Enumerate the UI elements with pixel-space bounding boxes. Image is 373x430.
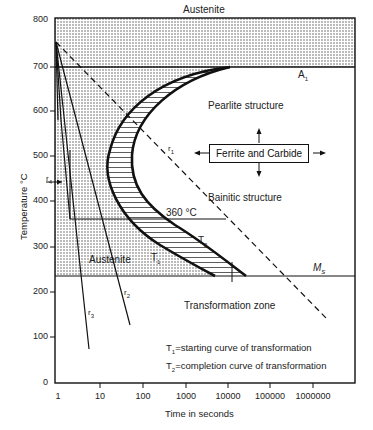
y-tick-0: 0 [24, 377, 48, 387]
y-tick-700: 700 [24, 61, 48, 71]
transformation-zone-label: Transformation zone [184, 300, 275, 311]
legend-t2-text: =completion curve of transformation [175, 360, 326, 371]
austenite-region-top [55, 18, 355, 67]
r2-label: r2 [124, 288, 130, 299]
t2-sub: 2 [204, 242, 207, 248]
arrow-down-icon [257, 171, 262, 177]
ferrite-carbide-label: Ferrite and Carbide [216, 148, 302, 159]
t1-label: T1 [151, 252, 160, 265]
y-tick-600: 600 [24, 105, 48, 115]
t1-sub: 1 [157, 259, 160, 265]
y-axis-label: Temperature °C [18, 173, 29, 240]
austenite-top-label: Austenite [183, 4, 225, 15]
x-tick-1000000: 1000000 [288, 391, 338, 401]
r1-label: r1 [168, 144, 174, 155]
arrow-left-icon [194, 151, 200, 156]
t2-label: T2 [198, 235, 207, 248]
pearlite-label: Pearlite structure [208, 100, 284, 111]
a1-sub: 1 [305, 76, 308, 82]
y-axis-ticks [50, 67, 55, 337]
r1-sub: 1 [171, 149, 174, 155]
legend-t2: T2=completion curve of transformation [166, 360, 326, 373]
bainitic-label: Bainitic structure [208, 192, 282, 203]
a1-label: A1 [298, 69, 308, 82]
x-axis-ticks [100, 383, 313, 388]
ms-label: MS [313, 262, 325, 275]
r3-sub: 3 [91, 313, 94, 319]
ms-sub: S [321, 269, 325, 275]
ferrite-carbide-box: Ferrite and Carbide [209, 144, 309, 163]
arrow-up-icon [257, 128, 262, 134]
y-tick-300: 300 [24, 241, 48, 251]
austenite-bottom-label: Austenite [89, 254, 131, 265]
r2-sub: 2 [127, 293, 130, 299]
y-tick-800: 800 [24, 14, 48, 24]
legend-t1-text: =starting curve of transformation [175, 342, 312, 353]
r3-label: r3 [88, 308, 94, 319]
y-tick-500: 500 [24, 150, 48, 160]
y-tick-200: 200 [24, 286, 48, 296]
x-axis-label: Time in seconds [165, 408, 234, 419]
deg360-label: 360 °C [166, 207, 197, 218]
a1-text: A [298, 69, 305, 80]
r4-sub: 4 [49, 179, 52, 185]
y-tick-100: 100 [24, 331, 48, 341]
legend-t1: T1=starting curve of transformation [166, 342, 312, 355]
arrow-right-icon [320, 151, 326, 156]
r4-label: r4 [46, 174, 52, 185]
